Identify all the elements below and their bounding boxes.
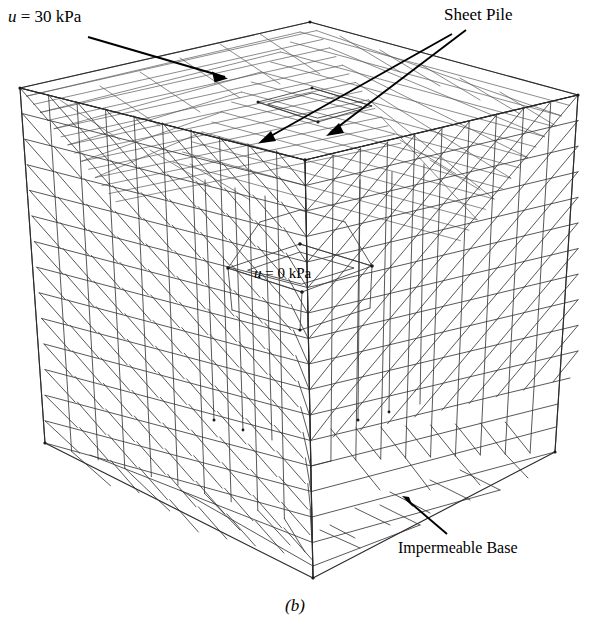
top-face-mesh (20, 22, 578, 241)
block-outline (20, 22, 578, 578)
label-u30-symbol: u (8, 7, 17, 26)
figure-caption: (b) (0, 596, 590, 616)
finite-element-mesh-figure: u = 30 kPa Sheet Pile u = 0 kPa Impermea… (0, 0, 590, 625)
label-u0-rest: = 0 kPa (262, 265, 312, 281)
label-pore-pressure-top: u = 30 kPa (8, 8, 81, 25)
mesh-nodes (18, 20, 579, 579)
leader-sheet-pile-left (258, 34, 452, 144)
label-pore-pressure-excavation: u = 0 kPa (254, 266, 311, 281)
front-right-face-mesh (305, 95, 578, 566)
label-impermeable-base: Impermeable Base (398, 540, 518, 556)
label-sheet-pile: Sheet Pile (444, 6, 512, 23)
excavation-pit (258, 88, 372, 122)
mesh-drawing (0, 0, 590, 625)
label-u30-rest: = 30 kPa (17, 7, 82, 26)
label-u0-symbol: u (254, 265, 262, 281)
